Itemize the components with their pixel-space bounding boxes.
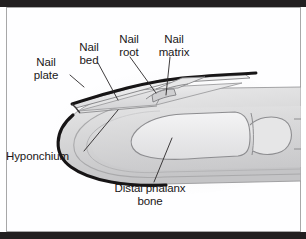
frame-top-band: [0, 0, 306, 7]
label-nail-matrix: Nail matrix: [150, 33, 198, 58]
interphalangeal-joint: [250, 117, 291, 154]
label-distal-phalanx-bone: Distal phalanx bone: [105, 182, 195, 207]
label-hyponchium: Hyponchium: [6, 150, 84, 163]
leader-nail-plate: [70, 75, 84, 87]
label-nail-bed: Nail bed: [67, 41, 111, 66]
label-nail-plate: Nail plate: [20, 56, 72, 81]
anatomy-figure: Nail plate Nail bed Nail root Nail matri…: [0, 0, 306, 239]
label-nail-root: Nail root: [108, 33, 150, 58]
frame-bottom-band: [0, 232, 306, 239]
